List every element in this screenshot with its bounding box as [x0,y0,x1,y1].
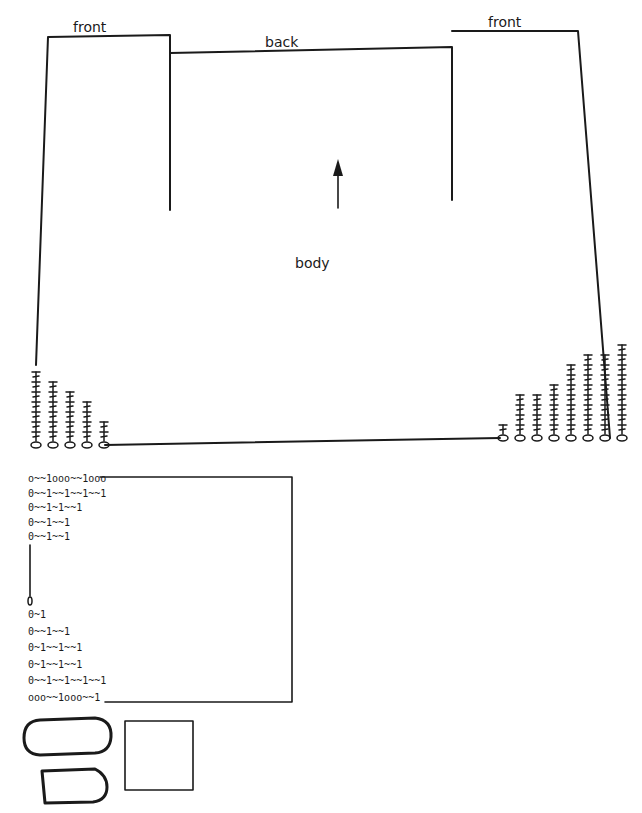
treble-stitch-bar [50,426,56,427]
treble-stitch-bar [585,399,591,400]
treble-stitch-bar [84,436,90,437]
treble-stitch-bar [585,419,591,420]
treble-stitch-bar [602,419,608,420]
treble-stitch-bar [585,389,591,390]
treble-stitch-bar [602,399,608,400]
sleeve-stitch-row: 0~1 [28,609,46,620]
body-panel: front back front body [36,14,610,445]
treble-stitch-bar [50,396,56,397]
treble-stitch-bar [619,409,625,410]
treble-stitch-bar [517,399,523,400]
chain-oval [583,435,593,441]
treble-stitch-bar [602,379,608,380]
treble-stitch-bar [50,436,56,437]
treble-stitch-bar [534,399,540,400]
sleeve-stitch-row: o~~1ooo~~1ooo [28,473,106,484]
treble-stitch-bar [585,359,591,360]
treble-stitch-bar [602,409,608,410]
treble-stitch-bar [33,416,39,417]
chain-oval [600,435,610,441]
stitch-column [31,372,41,448]
treble-stitch-bar [619,349,625,350]
sleeve-stitch-row: 0~~1~~1 [28,517,70,528]
front-right-label: front [488,14,522,30]
treble-stitch-bar [619,429,625,430]
stitch-column [549,385,559,441]
treble-stitch-bar [50,416,56,417]
arrow-up-icon [333,159,343,176]
treble-stitch-bar [551,409,557,410]
sleeve-stitch-row: ooo~~1ooo~~1 [28,692,100,703]
treble-stitch-bar [568,369,574,370]
treble-stitch-bar [33,406,39,407]
sleeve-stitch-row: 0~~1~~1 [28,626,70,637]
treble-stitch-bar [84,426,90,427]
treble-stitch-bar [568,379,574,380]
sleeve-stitch-row: 0~1~~1~~1 [28,659,82,670]
treble-stitch-bar [33,376,39,377]
treble-stitch-bar [101,436,107,437]
treble-stitch-bar [619,399,625,400]
treble-stitch-bar [517,419,523,420]
treble-stitch-bar [602,359,608,360]
treble-stitch-bar [534,429,540,430]
treble-stitch-bar [50,406,56,407]
sleeve-stitch-row: 0~1~~1~~1 [28,642,82,653]
treble-stitch-bar [33,396,39,397]
body-bottom-edge [105,438,500,445]
stitch-column [583,355,593,441]
stitch-column [65,392,75,448]
half-round-piece [42,769,107,803]
front-left-label: front [73,19,107,35]
sleeve-stitch-row: 0~~1~~1~~1~~1 [28,675,106,686]
treble-stitch-bar [602,429,608,430]
small-pieces [24,718,193,803]
treble-stitch-bar [33,436,39,437]
chain-oval [549,435,559,441]
oval-piece [24,718,111,755]
treble-stitch-bar [619,419,625,420]
treble-stitch-bar [33,386,39,387]
left-corner-chart [31,372,109,448]
crochet-schematic: front back front body o~~1ooo~~1ooo0~~1~… [0,0,642,813]
treble-stitch-bar [67,406,73,407]
treble-stitch-bar [500,429,506,430]
stitch-column [532,395,542,441]
body-outline [36,31,610,438]
treble-stitch-bar [50,386,56,387]
chain-oval [48,442,58,448]
treble-stitch-bar [84,416,90,417]
back-label: back [265,34,299,50]
treble-stitch-bar [517,429,523,430]
treble-stitch-bar [585,369,591,370]
treble-stitch-bar [568,389,574,390]
sleeve-stitch-rows: o~~1ooo~~1ooo0~~1~~1~~1~~10~~1~1~~10~~1~… [28,473,106,703]
chain-oval [617,435,627,441]
treble-stitch-bar [568,399,574,400]
treble-stitch-bar [67,396,73,397]
treble-stitch-bar [534,409,540,410]
body-label: body [295,255,330,271]
treble-stitch-bar [551,399,557,400]
treble-stitch-bar [619,379,625,380]
square-piece [125,721,193,790]
treble-stitch-bar [84,406,90,407]
treble-stitch-bar [602,389,608,390]
chain-oval [28,597,32,605]
chain-oval [515,435,525,441]
treble-stitch-bar [551,429,557,430]
stitch-column [566,365,576,441]
treble-stitch-bar [551,419,557,420]
sleeve-stitch-row: 0~~1~~1~~1~~1 [28,488,106,499]
chain-oval [31,442,41,448]
treble-stitch-bar [534,419,540,420]
treble-stitch-bar [585,409,591,410]
stitch-column [48,382,58,448]
stitch-column [515,395,525,441]
treble-stitch-bar [568,409,574,410]
treble-stitch-bar [619,389,625,390]
sleeve-outline [100,477,292,702]
treble-stitch-bar [67,436,73,437]
treble-stitch-bar [585,429,591,430]
stitch-column [82,402,92,448]
